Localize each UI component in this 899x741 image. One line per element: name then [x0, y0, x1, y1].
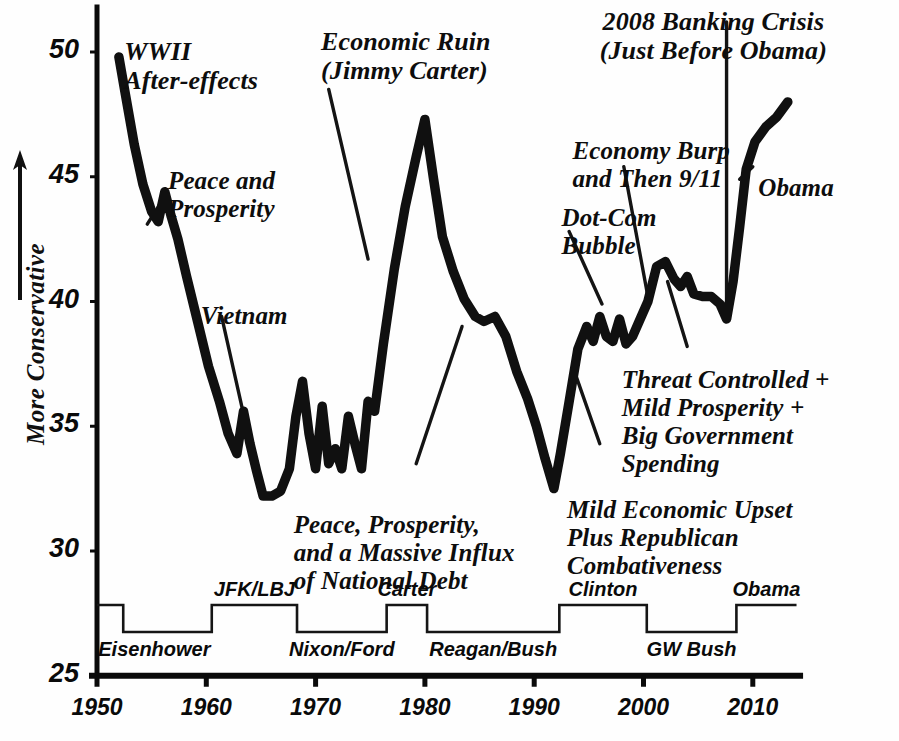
annotation-obama: Obama [758, 174, 834, 202]
y-tick-label-30: 30 [19, 533, 79, 564]
president-label-obama: Obama [666, 578, 866, 601]
vietnam-leader [222, 316, 244, 413]
x-tick-label-2010: 2010 [703, 694, 803, 721]
y-tick-label-50: 50 [19, 34, 79, 65]
x-tick-label-1960: 1960 [156, 694, 256, 721]
y-tick-label-40: 40 [19, 284, 79, 315]
president-step-chart [97, 605, 797, 632]
ruin-leader [329, 89, 368, 259]
annotation-ruin: Economic Ruin (Jimmy Carter) [321, 27, 491, 85]
y-tick-label-45: 45 [19, 159, 79, 190]
y-tick-label-35: 35 [19, 408, 79, 439]
president-step-line [97, 605, 797, 632]
x-tick-label-1980: 1980 [375, 694, 475, 721]
president-label-eisenhower: Eisenhower [54, 638, 254, 661]
annotation-mildupset: Mild Economic Upset Plus Republican Comb… [567, 496, 793, 580]
massive-leader [416, 326, 462, 463]
x-tick-label-1950: 1950 [47, 694, 147, 721]
president-label-reagan-bush: Reagan/Bush [393, 638, 593, 661]
president-label-carter: Carter [307, 578, 507, 601]
president-label-gw-bush: GW Bush [592, 638, 792, 661]
x-tick-label-1970: 1970 [266, 694, 366, 721]
threat-leader [668, 282, 688, 347]
annotation-vietnam: Vietnam [201, 302, 288, 330]
annotation-dotcom: Dot-Com Bubble [562, 204, 657, 260]
annotation-peace: Peace and Prosperity [168, 167, 275, 223]
chart-root: More Conservative 504540353025 195019601… [0, 0, 899, 741]
annotation-threat: Threat Controlled + Mild Prosperity + Bi… [622, 366, 830, 478]
annotation-wwii: WWII After-effects [124, 37, 258, 95]
annotation-banking: 2008 Banking Crisis (Just Before Obama) [600, 7, 827, 65]
annotation-burp: Economy Burp and Then 9/11 [572, 137, 729, 193]
x-tick-label-1990: 1990 [484, 694, 584, 721]
y-tick-label-25: 25 [19, 658, 79, 689]
x-tick-label-2000: 2000 [594, 694, 694, 721]
